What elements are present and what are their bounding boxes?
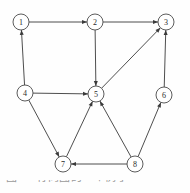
arrow-head-icon (94, 81, 98, 86)
edge-line (33, 93, 88, 94)
graph-node-2[interactable]: 2 (87, 14, 103, 30)
arrow-head-icon (20, 30, 24, 35)
figure-container: 12345678 图 一 有向图的一个例子 (0, 0, 190, 193)
directed-graph-diagram: 12345678 (0, 0, 190, 193)
edge-4-to-7 (29, 100, 59, 157)
node-label: 2 (93, 18, 97, 27)
node-label: 5 (94, 90, 98, 99)
edge-line (138, 102, 161, 156)
arrow-head-icon (153, 20, 158, 24)
edge-6-to-3 (164, 30, 168, 87)
edge-4-to-5 (33, 92, 88, 96)
figure-caption: 图 一 有向图的一个例子 (6, 180, 190, 184)
arrow-head-icon (157, 102, 161, 107)
edge-4-to-1 (20, 30, 25, 85)
graph-node-4[interactable]: 4 (17, 85, 33, 101)
node-label: 6 (162, 91, 166, 100)
arrow-head-icon (89, 101, 93, 106)
edge-8-to-6 (138, 102, 161, 156)
arrow-head-icon (82, 20, 87, 24)
graph-node-8[interactable]: 8 (127, 156, 143, 172)
arrow-head-icon (83, 92, 88, 96)
edge-line (164, 30, 166, 87)
node-label: 3 (164, 18, 168, 27)
node-label: 4 (23, 89, 27, 98)
figure-caption-strip: 图 一 有向图的一个例子 (0, 180, 190, 193)
edge-8-to-7 (71, 162, 127, 166)
edge-line (29, 100, 59, 157)
graph-node-5[interactable]: 5 (88, 86, 104, 102)
edge-line (21, 30, 24, 85)
edge-line (66, 101, 92, 157)
edge-2-to-5 (94, 30, 98, 86)
arrow-head-icon (164, 30, 168, 35)
graph-node-3[interactable]: 3 (158, 14, 174, 30)
node-label: 1 (19, 18, 23, 27)
graph-node-1[interactable]: 1 (13, 14, 29, 30)
edge-line (102, 28, 161, 89)
edge-1-to-2 (29, 20, 87, 24)
node-label: 8 (133, 160, 137, 169)
arrow-head-icon (71, 162, 76, 166)
edge-line (100, 101, 131, 157)
arrow-head-icon (100, 101, 104, 106)
graph-node-6[interactable]: 6 (156, 87, 172, 103)
arrow-head-icon (55, 152, 59, 157)
edge-2-to-3 (103, 20, 158, 24)
graph-node-7[interactable]: 7 (55, 156, 71, 172)
edge-5-to-3 (102, 28, 161, 89)
edge-line (95, 30, 96, 86)
edge-8-to-5 (100, 101, 131, 157)
node-label: 7 (61, 160, 65, 169)
edge-7-to-5 (66, 101, 92, 157)
